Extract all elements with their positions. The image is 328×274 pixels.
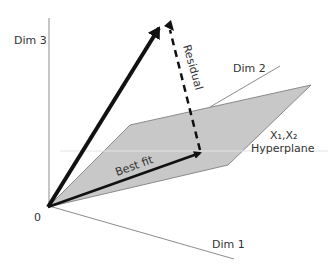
- dim2-label: Dim 2: [233, 62, 266, 75]
- hyperplane-vars-label: X₁,X₂: [270, 129, 297, 142]
- hyperplane-name-label: Hyperplane: [251, 142, 315, 155]
- residual-arrowhead-icon: [164, 20, 174, 31]
- dim1-label: Dim 1: [212, 238, 245, 251]
- residual-label: Residual: [180, 43, 205, 91]
- dim1-axis: [49, 206, 234, 259]
- regression-geometry-diagram: Dim 3 Dim 2 Dim 1 0 Residual Best fit X₁…: [0, 0, 328, 274]
- dim3-label: Dim 3: [14, 34, 47, 47]
- origin-label: 0: [34, 211, 41, 224]
